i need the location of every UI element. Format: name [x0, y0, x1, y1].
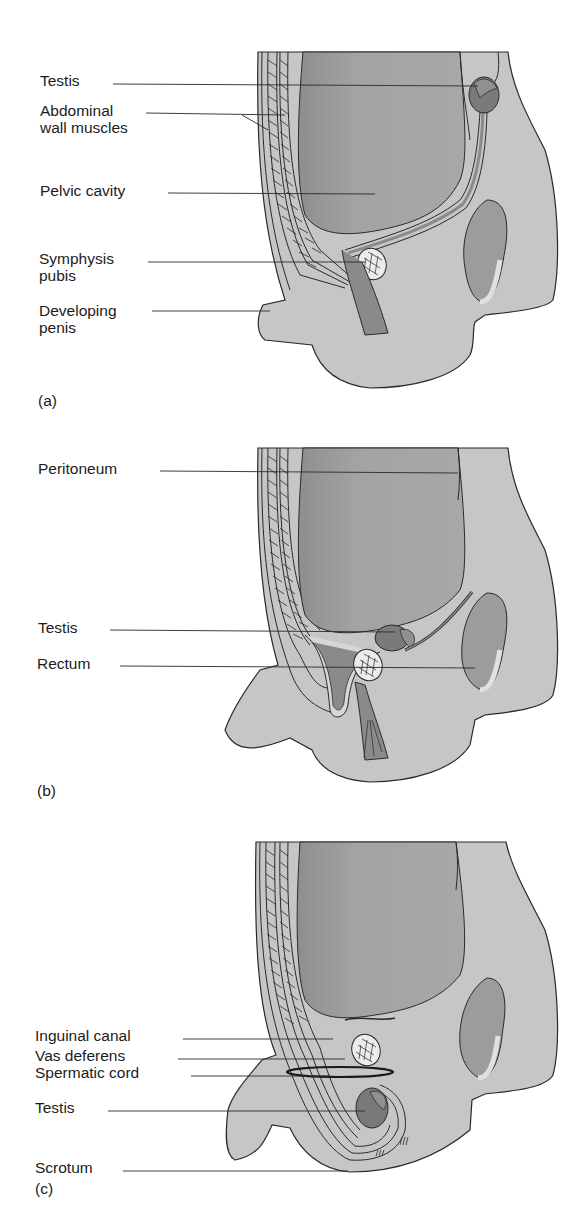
- label-vas-deferens: Vas deferens: [35, 1047, 125, 1064]
- label-testis: Testis: [35, 1099, 75, 1116]
- panel-b: Peritoneum Testis Rectum (b): [0, 420, 587, 810]
- label-scrotum: Scrotum: [35, 1159, 93, 1176]
- label-peritoneum: Peritoneum: [38, 460, 117, 477]
- panel-a-illustration: [0, 0, 587, 420]
- label-rectum: Rectum: [37, 655, 90, 672]
- panel-letter-a: (a): [38, 392, 57, 410]
- panel-letter-b: (b): [37, 782, 56, 800]
- panel-a: Testis Abdominal wall muscles Pelvic cav…: [0, 0, 587, 420]
- panel-b-illustration: [0, 420, 587, 810]
- panel-letter-c: (c): [35, 1180, 53, 1198]
- pelvic-cavity: [298, 52, 465, 234]
- label-testis: Testis: [40, 72, 80, 89]
- label-spermatic-cord: Spermatic cord: [35, 1064, 139, 1081]
- label-inguinal-canal: Inguinal canal: [35, 1027, 131, 1044]
- pelvic-cavity: [298, 448, 464, 633]
- label-pelvic-cavity: Pelvic cavity: [40, 182, 125, 199]
- label-developing-penis: Developing penis: [39, 302, 117, 336]
- panel-c: Inguinal canal Vas deferens Spermatic co…: [0, 810, 587, 1220]
- label-testis: Testis: [38, 619, 78, 636]
- label-abdominal-wall-muscles: Abdominal wall muscles: [40, 102, 128, 136]
- label-symphysis-pubis: Symphysis pubis: [39, 250, 114, 284]
- pelvic-cavity: [297, 842, 465, 1018]
